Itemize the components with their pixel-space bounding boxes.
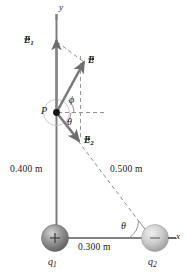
vector-E1-label: E 1 xyxy=(24,36,34,46)
overarrow-icon xyxy=(88,56,94,61)
y-axis-label: y xyxy=(59,3,63,12)
charge-q2-subscript: 2 xyxy=(153,260,157,269)
charge-q1-label: q1 xyxy=(48,257,57,267)
theta-angle-label-at-q2: θ xyxy=(121,221,126,231)
theta-angle-label-at-P: θ xyxy=(67,117,72,127)
vector-E-arrow-accent: E xyxy=(88,56,94,66)
dashed-parallelogram-side xyxy=(57,42,84,62)
charge-q1-subscript: 1 xyxy=(53,260,57,269)
vector-E2-label: E 2 xyxy=(84,136,94,146)
theta-angle-arc-at-q2 xyxy=(129,221,139,239)
vector-E-label: E xyxy=(88,56,94,66)
phi-angle-label: ϕ xyxy=(69,95,74,105)
point-P-marker xyxy=(53,109,60,116)
charge-q2-label: q2 xyxy=(148,257,157,267)
distance-diagonal-label: 0.500 m xyxy=(110,165,143,175)
vector-E2-subscript: 2 xyxy=(90,139,94,147)
distance-horizontal-label: 0.300 m xyxy=(78,243,111,253)
physics-diagram: y x P E 1 E E 2 xyxy=(0,0,186,273)
point-P-label: P xyxy=(41,106,47,116)
distance-vertical-label: 0.400 m xyxy=(10,165,43,175)
x-axis-label: x xyxy=(176,232,180,241)
vector-E1-subscript: 1 xyxy=(30,39,34,47)
